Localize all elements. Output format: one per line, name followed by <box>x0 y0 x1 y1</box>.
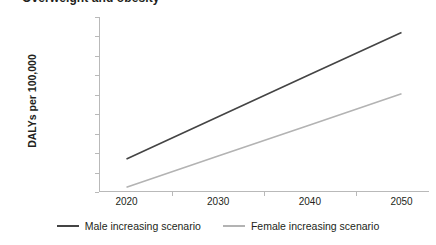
legend-swatch-icon <box>57 225 79 227</box>
y-tick-mark <box>95 95 99 96</box>
y-tick-mark <box>95 134 99 135</box>
legend-label: Female increasing scenario <box>251 220 379 232</box>
y-tick-mark <box>95 56 99 57</box>
series-lines <box>99 17 429 192</box>
y-tick-mark <box>95 17 99 18</box>
x-tick-label: 2030 <box>207 196 229 207</box>
y-tick-mark <box>95 75 99 76</box>
y-tick-mark <box>95 153 99 154</box>
x-tick-label: 2040 <box>299 196 321 207</box>
legend-swatch-icon <box>223 225 245 227</box>
legend-label: Male increasing scenario <box>85 220 201 232</box>
y-tick-mark <box>95 192 99 193</box>
plot-area <box>99 17 429 192</box>
x-tick-label: 2050 <box>390 196 412 207</box>
chart-legend: Male increasing scenarioFemale increasin… <box>0 220 436 232</box>
x-tick-label: 2020 <box>115 196 137 207</box>
legend-item[interactable]: Male increasing scenario <box>57 220 201 232</box>
y-tick-mark <box>95 114 99 115</box>
y-tick-mark <box>95 36 99 37</box>
y-tick-mark <box>95 173 99 174</box>
legend-item[interactable]: Female increasing scenario <box>223 220 379 232</box>
x-axis-tick-labels: 2020203020402050 <box>0 196 436 212</box>
chart-figure: Overweight and obesity DALYs per 100,000… <box>0 0 436 245</box>
